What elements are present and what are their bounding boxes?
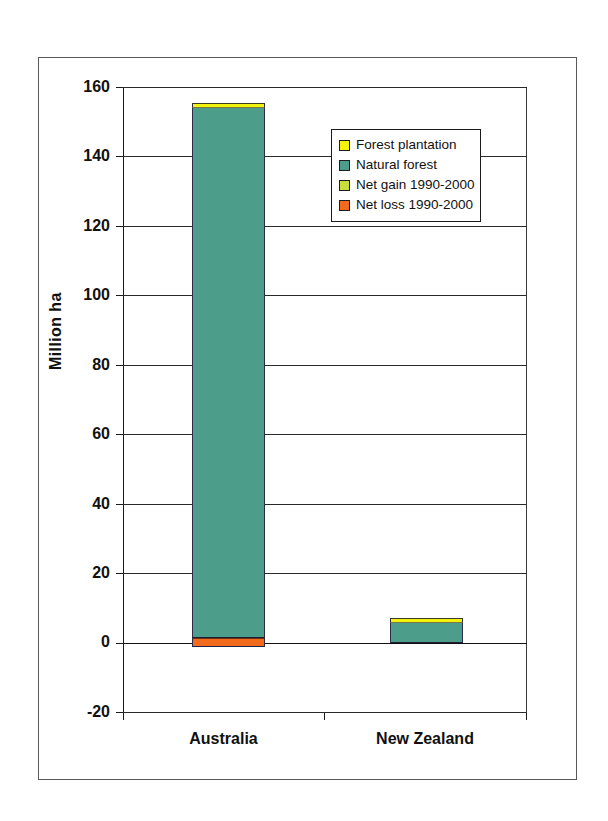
legend-item-net-loss[interactable]: Net loss 1990-2000 (339, 195, 474, 215)
x-tick-end (526, 713, 527, 720)
gridline-60 (123, 434, 527, 435)
legend-swatch-natural-forest-icon (339, 160, 350, 171)
legend-label-forest-plantation: Forest plantation (356, 138, 457, 152)
y-tick-label-160: 160 (0, 79, 110, 95)
legend-swatch-net-gain-icon (339, 180, 350, 191)
y-axis-tick-labels: 160 140 120 100 80 60 40 20 0 -20 (0, 0, 110, 821)
legend-label-natural-forest: Natural forest (356, 158, 437, 172)
y-tick-label-0: 0 (0, 634, 110, 650)
y-tick-label-60: 60 (0, 426, 110, 442)
gridline-20 (123, 573, 527, 574)
bar-stack-australia[interactable] (192, 103, 265, 647)
x-category-label-australia: Australia (123, 730, 324, 748)
bar-stack-new-zealand[interactable] (390, 618, 463, 643)
legend-item-net-gain[interactable]: Net gain 1990-2000 (339, 175, 474, 195)
bar-segment-australia-natural-forest[interactable] (192, 108, 265, 638)
gridline-160 (123, 87, 527, 88)
bar-segment-australia-net-loss[interactable] (192, 638, 265, 647)
legend-item-natural-forest[interactable]: Natural forest (339, 155, 474, 175)
x-tick-start (123, 713, 124, 720)
chart-legend: Forest plantation Natural forest Net gai… (331, 129, 481, 222)
gridline-100 (123, 295, 527, 296)
legend-label-net-loss: Net loss 1990-2000 (356, 198, 473, 212)
y-tick-label-120: 120 (0, 218, 110, 234)
legend-label-net-gain: Net gain 1990-2000 (356, 178, 475, 192)
bar-segment-new-zealand-natural-forest[interactable] (390, 623, 463, 643)
y-tick-label-minus20: -20 (0, 704, 110, 720)
y-axis-title: Million ha (47, 250, 65, 370)
legend-swatch-forest-plantation-icon (339, 140, 350, 151)
gridline-40 (123, 504, 527, 505)
gridline-80 (123, 365, 527, 366)
y-tick-label-20: 20 (0, 565, 110, 581)
legend-item-forest-plantation[interactable]: Forest plantation (339, 135, 474, 155)
gridline-zero (123, 643, 527, 644)
legend-swatch-net-loss-icon (339, 200, 350, 211)
x-category-label-new-zealand: New Zealand (324, 730, 526, 748)
gridline-120 (123, 226, 527, 227)
x-tick-divider (324, 713, 325, 720)
x-axis: Australia New Zealand (123, 713, 527, 773)
y-tick-label-40: 40 (0, 496, 110, 512)
y-tick-label-140: 140 (0, 148, 110, 164)
